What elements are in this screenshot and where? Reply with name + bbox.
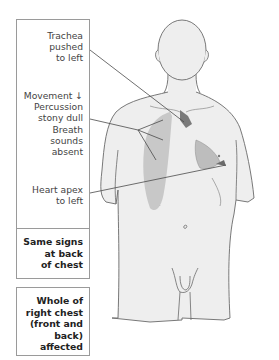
- note-box-whole: Whole of right chest (front and back) af…: [16, 287, 90, 356]
- head-outline: [158, 20, 206, 80]
- label-trachea: Trachea pushed to left: [47, 30, 83, 64]
- note-back-text: Same signs at back of chest: [23, 236, 83, 271]
- nipple-left: [218, 155, 220, 157]
- note-box-back: Same signs at back of chest: [16, 228, 90, 279]
- label-chest-signs: Movement ↓ Percussion stony dull Breath …: [24, 90, 83, 157]
- label-heart-apex: Heart apex to left: [32, 184, 83, 206]
- note-whole-text: Whole of right chest (front and back) af…: [17, 295, 83, 353]
